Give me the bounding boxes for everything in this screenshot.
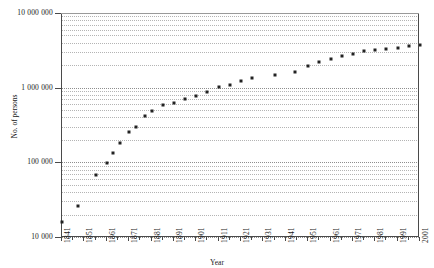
data-point xyxy=(161,104,164,107)
gridline-horizontal xyxy=(62,91,419,92)
gridline-horizontal xyxy=(62,43,419,44)
x-axis-tick-label: 1961 xyxy=(333,227,341,243)
x-axis-tick-label: 1981 xyxy=(377,227,385,243)
data-point xyxy=(363,49,366,52)
data-point xyxy=(119,141,122,144)
gridline-horizontal xyxy=(62,162,419,163)
data-point xyxy=(396,46,399,49)
data-point xyxy=(61,220,64,223)
data-point xyxy=(318,61,321,64)
x-axis-tick xyxy=(61,237,62,241)
x-axis-tick-minor xyxy=(117,237,118,240)
data-point xyxy=(206,90,209,93)
x-axis-tick-minor xyxy=(206,237,207,240)
x-axis-tick xyxy=(173,237,174,241)
x-axis-tick-minor xyxy=(274,237,275,240)
data-point xyxy=(134,125,137,128)
gridline-horizontal xyxy=(62,185,419,186)
y-axis-tick-label: 10 000 000 xyxy=(17,9,53,17)
gridline-horizontal xyxy=(62,25,419,26)
x-axis-title: Year xyxy=(0,258,434,267)
x-axis-tick-minor xyxy=(184,237,185,240)
x-axis-tick xyxy=(106,237,107,241)
plot-frame-top-spine xyxy=(61,13,419,14)
x-axis-tick-label: 1881 xyxy=(154,227,162,243)
x-axis-tick xyxy=(128,237,129,241)
gridline-horizontal xyxy=(62,30,419,31)
gridline-horizontal xyxy=(62,110,419,111)
population-log-scatter-chart: 10 000 0001 000 000100 00010 000 No. of … xyxy=(0,0,434,268)
gridline-horizontal xyxy=(62,99,419,100)
gridline-horizontal xyxy=(62,192,419,193)
gridline-horizontal xyxy=(62,35,419,36)
gridline-horizontal xyxy=(62,88,419,89)
gridline-horizontal xyxy=(62,16,419,17)
x-axis-tick-label: 1921 xyxy=(243,227,251,243)
y-axis-tick xyxy=(55,88,61,89)
data-point xyxy=(273,73,276,76)
gridline-horizontal xyxy=(62,95,419,96)
gridline-horizontal xyxy=(62,174,419,175)
data-point xyxy=(307,65,310,68)
gridline-horizontal xyxy=(62,170,419,171)
x-axis-tick-label: 1841 xyxy=(64,227,72,243)
x-axis-tick-label: 1861 xyxy=(109,227,117,243)
data-point xyxy=(251,77,254,80)
gridline-horizontal xyxy=(62,166,419,167)
gridline-horizontal xyxy=(62,201,419,202)
gridline-horizontal xyxy=(62,127,419,128)
data-point xyxy=(217,86,220,89)
data-point xyxy=(105,161,108,164)
x-axis-tick-minor xyxy=(95,237,96,240)
x-axis-tick-label: 1901 xyxy=(198,227,206,243)
x-axis-tick-minor xyxy=(385,237,386,240)
gridline-horizontal xyxy=(62,215,419,216)
data-point xyxy=(195,95,198,98)
x-axis-tick xyxy=(397,237,398,241)
data-point xyxy=(76,205,79,208)
y-axis-title: No. of persons xyxy=(10,77,19,157)
gridline-horizontal xyxy=(62,20,419,21)
data-point xyxy=(351,52,354,55)
x-axis-tick xyxy=(352,237,353,241)
data-point xyxy=(228,83,231,86)
gridline-horizontal xyxy=(62,140,419,141)
y-axis-tick-label: 100 000 xyxy=(27,158,53,166)
x-axis-tick-label: 1971 xyxy=(355,227,363,243)
x-axis-tick xyxy=(330,237,331,241)
data-point xyxy=(374,49,377,52)
y-axis-tick xyxy=(55,162,61,163)
gridline-horizontal xyxy=(62,52,419,53)
data-point xyxy=(293,71,296,74)
x-axis-tick-label: 1851 xyxy=(86,227,94,243)
x-axis-tick-label: 2001 xyxy=(422,227,430,243)
y-axis-tick-label: 1 000 000 xyxy=(21,84,53,92)
x-axis-tick-minor xyxy=(318,237,319,240)
data-point xyxy=(407,44,410,47)
x-axis-tick-label: 1911 xyxy=(221,227,229,243)
y-axis-tick xyxy=(55,13,61,14)
y-axis-tick-label: 10 000 xyxy=(31,233,53,241)
data-point xyxy=(94,173,97,176)
x-axis-tick-minor xyxy=(363,237,364,240)
data-point xyxy=(240,80,243,83)
data-point xyxy=(150,109,153,112)
x-axis-tick-label: 1931 xyxy=(265,227,273,243)
gridline-horizontal xyxy=(62,65,419,66)
gridline-horizontal xyxy=(62,104,419,105)
x-axis-tick-minor xyxy=(251,237,252,240)
data-point xyxy=(143,115,146,118)
x-axis-tick xyxy=(419,237,420,241)
x-axis-tick xyxy=(285,237,286,241)
gridline-horizontal xyxy=(62,179,419,180)
data-point xyxy=(340,54,343,57)
x-axis-tick-label: 1871 xyxy=(131,227,139,243)
plot-area xyxy=(61,13,419,237)
x-axis-tick-label: 1891 xyxy=(176,227,184,243)
data-point xyxy=(112,151,115,154)
data-point xyxy=(329,58,332,61)
gridline-horizontal xyxy=(62,117,419,118)
x-axis-tick-minor xyxy=(72,237,73,240)
x-axis-tick xyxy=(307,237,308,241)
x-axis-tick-minor xyxy=(296,237,297,240)
